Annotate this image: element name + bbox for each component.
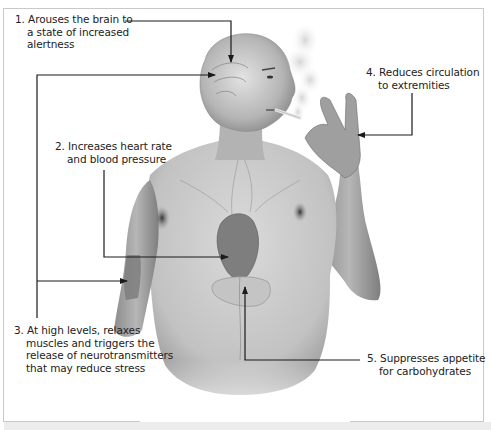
label-number: 3. [14, 324, 24, 336]
label-line: Increases heart rate [68, 140, 172, 152]
label-line: alertness [15, 38, 133, 51]
label-line: that may reduce stress [14, 362, 173, 375]
label-number: 1. [15, 13, 25, 25]
label-line: Suppresses appetite [380, 352, 485, 364]
label-line: for carbohydrates [367, 365, 485, 378]
label-line: Reduces circulation [379, 66, 479, 78]
label-4-circulation: 4. Reduces circulation to extremities [366, 66, 480, 91]
label-line: muscles and triggers the [14, 337, 173, 350]
label-line: to extremities [366, 79, 480, 92]
label-number: 2. [55, 140, 65, 152]
label-number: 5. [367, 352, 377, 364]
label-line: Arouses the brain to [28, 13, 133, 25]
label-2-heart-rate: 2. Increases heart rate and blood pressu… [55, 140, 172, 165]
label-number: 4. [366, 66, 376, 78]
label-line: a state of increased [15, 26, 133, 39]
label-3-relaxes-muscles: 3. At high levels, relaxes muscles and t… [14, 324, 173, 374]
label-1-brain-alertness: 1. Arouses the brain to a state of incre… [15, 13, 133, 51]
label-5-appetite: 5. Suppresses appetite for carbohydrates [367, 352, 485, 377]
label-line: and blood pressure [55, 153, 172, 166]
label-line: At high levels, relaxes [27, 324, 140, 336]
label-line: release of neurotransmitters [14, 349, 173, 362]
